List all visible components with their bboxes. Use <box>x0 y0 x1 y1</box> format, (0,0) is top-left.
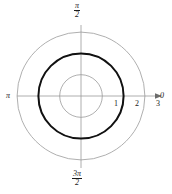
fraction-denominator: 2 <box>74 11 80 19</box>
theta-label-3pi-over-2: 3π 2 <box>72 170 82 188</box>
theta-label-zero: 0 <box>160 92 164 100</box>
r-tick-label-2: 2 <box>135 100 139 108</box>
theta-label-pi-over-2: π 2 <box>74 2 80 20</box>
polar-plot-canvas <box>0 0 172 194</box>
fraction-denominator: 2 <box>72 179 82 187</box>
polar-plot-figure: π 2 3π 2 π 0 1 2 3 <box>0 0 172 194</box>
r-tick-label-1: 1 <box>114 100 118 108</box>
fraction-pi-over-2: π 2 <box>74 2 80 20</box>
r-tick-label-3: 3 <box>156 100 160 108</box>
fraction-3pi-over-2: 3π 2 <box>72 170 82 188</box>
theta-label-pi: π <box>6 92 10 100</box>
